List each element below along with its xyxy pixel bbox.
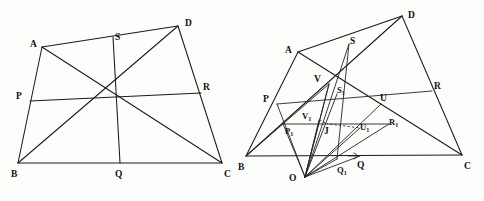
label-P-right: P (263, 94, 269, 104)
ray-O-R1 (305, 124, 389, 177)
label-O: O (289, 173, 296, 183)
label-P1: P1 (285, 126, 293, 137)
geometry-figure-root: A B C D P Q R S (0, 0, 484, 201)
segment-D-C-right (402, 16, 462, 155)
label-J: J (324, 126, 329, 136)
segment-J-U1-dashed (330, 124, 360, 128)
right-quadrilateral-diagram: A B C D O P Q R S V U J S1 V1 U1 P1 R1 Q… (0, 0, 484, 201)
label-A-right: A (285, 45, 292, 55)
label-D-right: D (408, 10, 415, 20)
segment-A-C-right (298, 52, 462, 155)
label-R1: R1 (389, 117, 398, 128)
label-S1: S1 (337, 85, 345, 96)
label-V: V (314, 74, 321, 84)
right-labels: A B C D O P Q R S V U J S1 V1 U1 P1 R1 Q… (238, 10, 471, 183)
label-S-right: S (350, 36, 355, 46)
label-U: U (380, 93, 387, 103)
label-Q1: Q1 (337, 165, 347, 176)
label-V1: V1 (302, 111, 311, 122)
ray-O-S1 (305, 94, 337, 177)
label-R-right: R (434, 81, 441, 91)
label-C-right: C (464, 161, 471, 171)
segment-B-V-U (246, 84, 329, 156)
segment-A-D-right (298, 16, 402, 52)
label-Q-right: Q (357, 160, 364, 170)
segment-P-R-right (277, 91, 432, 104)
label-B-right: B (238, 162, 245, 172)
